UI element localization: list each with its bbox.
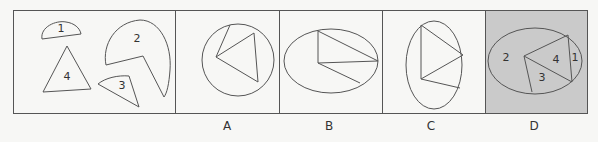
option-b-label[interactable]: B bbox=[319, 119, 339, 133]
option-d-label[interactable]: D bbox=[524, 119, 544, 133]
piece-labels: 1 2 3 4 bbox=[58, 22, 141, 92]
svg-text:3: 3 bbox=[539, 71, 546, 84]
svg-text:1: 1 bbox=[572, 51, 579, 64]
svg-text:3: 3 bbox=[119, 79, 126, 92]
option-a-label[interactable]: A bbox=[217, 119, 237, 133]
option-c-label[interactable]: C bbox=[421, 119, 441, 133]
svg-text:4: 4 bbox=[553, 53, 560, 66]
option-c-figure bbox=[406, 21, 463, 109]
piece-4 bbox=[43, 46, 91, 92]
svg-text:4: 4 bbox=[64, 70, 71, 83]
puzzle-figure: 1 2 3 4 2 4 3 1 bbox=[0, 0, 598, 142]
option-a-figure bbox=[202, 24, 274, 96]
svg-text:2: 2 bbox=[503, 51, 510, 64]
svg-text:2: 2 bbox=[134, 32, 141, 45]
option-b-figure bbox=[284, 29, 378, 93]
svg-text:1: 1 bbox=[58, 22, 65, 35]
